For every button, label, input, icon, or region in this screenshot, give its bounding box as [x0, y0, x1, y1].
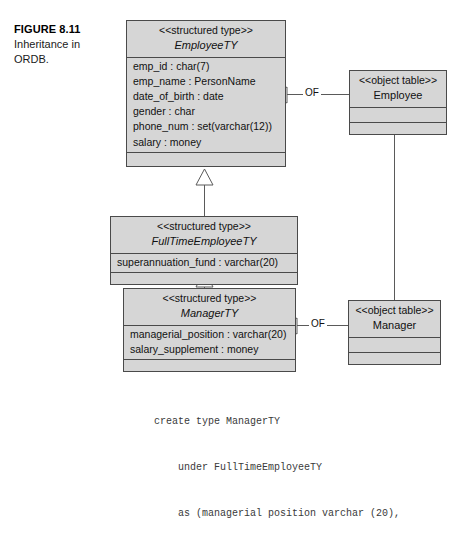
figure-number: FIGURE 8.11 [14, 22, 114, 37]
stereotype-label: <<structured type>> [131, 24, 281, 37]
uml-class-employee-table[interactable]: <<object table>> Employee [349, 70, 447, 135]
uml-header-manager-ty: <<structured type>> ManagerTY [124, 289, 295, 326]
type-name-label: Manager [353, 319, 436, 333]
attribute-row: managerial_position : varchar(20) [124, 327, 295, 342]
uml-operations-compartment [124, 360, 295, 371]
uml-attributes-fulltime-employee-ty: superannuation_fund : varchar(20) [111, 254, 297, 273]
type-name-label: EmployeeTY [131, 39, 281, 53]
uml-attributes-manager-ty: managerial_position : varchar(20) salary… [124, 326, 295, 360]
type-name-label: ManagerTY [128, 307, 291, 321]
uml-class-employee-ty[interactable]: <<structured type>> EmployeeTY emp_id : … [126, 20, 286, 167]
attribute-row: phone_num : set(varchar(12)) [127, 119, 285, 134]
of-label-employee: OF [303, 87, 321, 98]
figure-description-line2: ORDB. [14, 52, 114, 67]
connector-table-generalization-line [394, 128, 395, 300]
uml-header-employee-ty: <<structured type>> EmployeeTY [127, 21, 285, 58]
figure-caption: FIGURE 8.11 Inheritance in ORDB. [14, 22, 114, 67]
sql-line: under FullTimeEmployeeTY [154, 460, 400, 475]
generalization-arrowhead-fulltime-icon [195, 168, 214, 186]
attribute-row: date_of_birth : date [127, 89, 285, 104]
stereotype-label: <<structured type>> [128, 292, 291, 305]
figure-description-line1: Inheritance in [14, 37, 114, 52]
uml-operations-compartment [350, 123, 446, 134]
attribute-row: emp_name : PersonName [127, 74, 285, 89]
uml-attributes-compartment [349, 338, 440, 353]
uml-class-manager-ty[interactable]: <<structured type>> ManagerTY managerial… [123, 288, 296, 372]
uml-header-employee-table: <<object table>> Employee [350, 71, 446, 108]
attribute-row: salary_supplement : money [124, 342, 295, 357]
connector-generalization-fulltime-line [204, 184, 205, 216]
uml-header-fulltime-employee-ty: <<structured type>> FullTimeEmployeeTY [111, 217, 297, 254]
uml-attributes-employee-ty: emp_id : char(7) emp_name : PersonName d… [127, 58, 285, 153]
attribute-row: salary : money [127, 135, 285, 150]
stereotype-label: <<object table>> [354, 74, 442, 87]
of-label-manager: OF [309, 318, 327, 329]
type-name-label: Employee [354, 89, 442, 103]
uml-operations-compartment [127, 153, 285, 166]
attribute-row: gender : char [127, 104, 285, 119]
stereotype-label: <<object table>> [353, 304, 436, 317]
attribute-row: superannuation_fund : varchar(20) [111, 255, 297, 270]
sql-line: create type ManagerTY [154, 414, 400, 429]
attribute-row: emp_id : char(7) [127, 59, 285, 74]
uml-class-manager-table[interactable]: <<object table>> Manager [348, 300, 441, 365]
type-name-label: FullTimeEmployeeTY [115, 235, 293, 249]
sql-line: as (managerial position varchar (20), [154, 506, 400, 521]
uml-class-fulltime-employee-ty[interactable]: <<structured type>> FullTimeEmployeeTY s… [110, 216, 298, 285]
sql-code-block: create type ManagerTY under FullTimeEmpl… [154, 383, 400, 541]
uml-operations-compartment [349, 353, 440, 364]
uml-header-manager-table: <<object table>> Manager [349, 301, 440, 338]
uml-operations-compartment [111, 273, 297, 284]
stereotype-label: <<structured type>> [115, 220, 293, 233]
uml-attributes-compartment [350, 108, 446, 123]
